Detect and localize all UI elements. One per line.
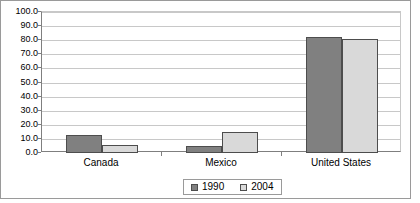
- y-axis-tick-mark: [38, 67, 41, 68]
- y-axis-tick-mark: [38, 25, 41, 26]
- y-axis-tick-mark: [38, 82, 41, 83]
- legend-label: 1990: [202, 182, 224, 192]
- y-axis-tick-mark: [38, 152, 41, 153]
- y-axis-tick-mark: [38, 138, 41, 139]
- legend-entry-2004: 2004: [240, 182, 273, 192]
- y-axis-tick-mark: [38, 96, 41, 97]
- y-axis-tick-label: 70.0: [2, 49, 38, 58]
- legend-entry-1990: 1990: [191, 182, 224, 192]
- y-axis-tick-mark: [38, 53, 41, 54]
- x-axis-category-label: Canada: [41, 157, 161, 168]
- y-axis-tick-label: 90.0: [2, 21, 38, 30]
- x-axis-category-label: United States: [281, 157, 401, 168]
- y-axis-tick-label: 100.0: [2, 7, 38, 16]
- y-axis-tick-mark: [38, 124, 41, 125]
- gridline: [42, 26, 400, 27]
- y-axis-tick-mark: [38, 110, 41, 111]
- x-axis-category-label: Mexico: [161, 157, 281, 168]
- bar-canada-2004: [102, 145, 138, 153]
- y-axis-tick-label: 20.0: [2, 120, 38, 129]
- chart-legend: 19902004: [183, 179, 282, 195]
- legend-swatch-icon-2004: [240, 184, 247, 191]
- bar-canada-1990: [66, 135, 102, 153]
- bar-chart: 100.090.080.070.060.050.040.030.020.010.…: [0, 0, 420, 203]
- bar-mexico-2004: [222, 132, 258, 153]
- y-axis-tick-label: 40.0: [2, 92, 38, 101]
- y-axis: 100.090.080.070.060.050.040.030.020.010.…: [0, 0, 38, 203]
- gridline: [42, 12, 400, 13]
- legend-label: 2004: [251, 182, 273, 192]
- y-axis-tick-label: 80.0: [2, 35, 38, 44]
- plot-area: [41, 11, 401, 152]
- x-axis-tick-mark: [161, 152, 162, 156]
- y-axis-tick-mark: [38, 39, 41, 40]
- legend-swatch-icon-1990: [191, 184, 198, 191]
- y-axis-tick-label: 60.0: [2, 63, 38, 72]
- y-axis-tick-label: 30.0: [2, 106, 38, 115]
- bar-united-states-1990: [306, 37, 342, 153]
- y-axis-tick-mark: [38, 11, 41, 12]
- y-axis-tick-label: 0.0: [2, 148, 38, 157]
- bar-mexico-1990: [186, 146, 222, 153]
- bar-united-states-2004: [342, 39, 378, 153]
- y-axis-tick-label: 50.0: [2, 78, 38, 87]
- y-axis-tick-label: 10.0: [2, 134, 38, 143]
- x-axis-tick-mark: [281, 152, 282, 156]
